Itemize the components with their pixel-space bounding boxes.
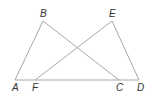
geometry-diagram: A B C D E F (0, 0, 153, 96)
label-f: F (32, 82, 39, 93)
label-b: B (40, 8, 47, 19)
segment-bc (43, 21, 119, 80)
label-e: E (109, 8, 116, 19)
label-d: D (137, 82, 144, 93)
label-c: C (116, 82, 124, 93)
segments (15, 21, 139, 80)
segment-ab (15, 21, 43, 80)
segment-ed (112, 21, 139, 80)
segment-fe (35, 21, 112, 80)
label-a: A (11, 82, 19, 93)
